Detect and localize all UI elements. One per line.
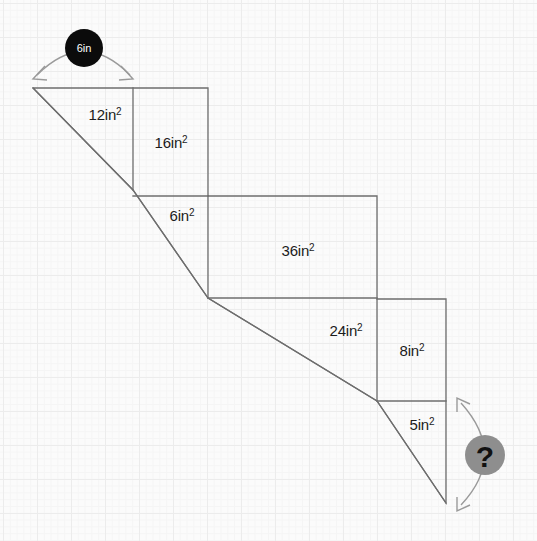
area-label-24: 24in2: [330, 322, 364, 340]
area-label-8: 8in2: [400, 342, 425, 360]
area-labels-group: 12in2 16in2 6in2 36in2 24in2 8in2 5in2: [89, 106, 435, 434]
unknown-dimension-arrowhead-bottom: [457, 497, 470, 511]
area-label-16: 16in2: [155, 134, 189, 152]
known-dimension-badge-label: 6in: [77, 42, 92, 54]
known-dimension-annotation: 6in: [33, 29, 133, 80]
area-label-5: 5in2: [410, 416, 435, 434]
known-dimension-arrowhead-right: [119, 66, 133, 80]
unknown-dimension-badge-label: ?: [476, 440, 494, 473]
area-label-36: 36in2: [282, 242, 316, 260]
unknown-dimension-annotation: ?: [457, 398, 505, 511]
staircase-outline: [33, 88, 446, 503]
geometry-figure: 12in2 16in2 6in2 36in2 24in2 8in2 5in2 6…: [0, 0, 537, 541]
outline-group: [33, 88, 446, 503]
area-label-12: 12in2: [89, 106, 123, 124]
figure-canvas: 12in2 16in2 6in2 36in2 24in2 8in2 5in2 6…: [0, 0, 537, 541]
staircase-diagonal: [33, 88, 446, 503]
area-label-6: 6in2: [170, 207, 195, 225]
diagonal-group: [33, 88, 446, 503]
